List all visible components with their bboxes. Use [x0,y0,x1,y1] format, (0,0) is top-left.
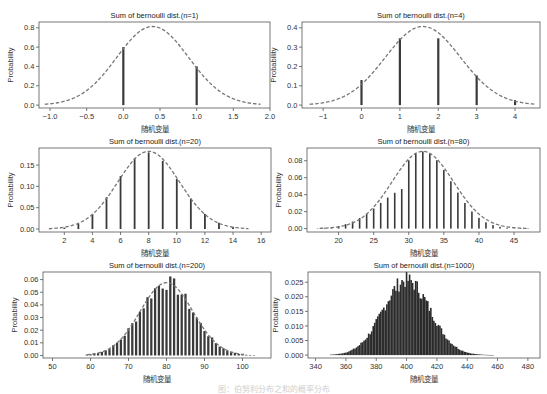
axes-frame [39,22,270,108]
y-axis-label: Probability [271,297,280,332]
y-tick-label: 0.02 [24,326,39,335]
subplot-6: 3403603804004204404604800.0000.0050.0100… [271,261,540,384]
x-axis-ticks: 5060708090100 [48,358,248,371]
subplot-5: 50607080901000.000.010.020.030.040.050.0… [10,261,271,384]
bar [469,353,471,355]
y-tick-label: 0.04 [24,300,39,309]
bar [165,290,167,356]
x-tick-label: 50 [48,362,56,371]
bar [476,354,478,355]
y-tick-label: 0.2 [24,81,34,90]
bar [226,351,228,356]
bar [374,323,376,355]
y-tick-label: 0.08 [288,156,303,165]
bar [437,38,439,105]
bar [184,294,186,356]
y-tick-label: 0.8 [24,23,34,32]
x-tick-label: 2 [436,112,440,121]
bar [334,354,336,355]
bar [397,278,399,355]
bar [77,224,79,229]
bar [148,152,150,229]
bar [341,354,343,355]
bar [429,154,431,229]
x-axis-ticks: −1.0−0.50.00.51.01.52.0 [43,108,276,121]
bar [365,340,367,356]
bars [330,272,494,356]
bar [438,325,440,355]
y-tick-label: 0.05 [20,203,35,212]
bar [410,280,412,355]
bar [196,66,198,105]
y-axis-label: Probability [269,47,278,82]
bar [162,161,164,229]
bar [492,225,494,228]
bar [345,353,347,355]
x-tick-label: 360 [340,362,353,371]
bars [122,47,198,105]
x-tick-label: 45 [510,236,518,245]
bar [477,354,479,355]
y-axis-ticks: 0.00.20.40.60.8 [24,23,39,109]
bar [192,313,194,356]
bar [499,227,501,229]
y-tick-label: 0.0 [24,101,34,110]
subplot-title: Sum of bernoulli dist.(n=80) [378,137,470,146]
bar [422,294,424,355]
y-tick-label: 0.00 [24,351,39,360]
bar [371,331,373,355]
bar [324,228,326,229]
bar [453,346,455,356]
subplot-2: −1012340.00.10.20.30.4Sum of bernoulli d… [269,11,540,134]
bar [407,281,409,355]
bar [101,352,103,356]
x-tick-label: 2.0 [265,112,275,121]
x-axis-label: 随机变量 [407,124,436,134]
bar [190,199,192,229]
bar [139,312,141,356]
normal-fit-curve [320,151,528,228]
bar [447,339,449,355]
y-tick-label: 0.6 [24,43,34,52]
bar [372,326,374,355]
y-tick-label: 0.4 [287,23,297,32]
bar [338,354,340,355]
bar [448,340,450,355]
bar [457,193,459,229]
bar [106,197,108,229]
bar [471,354,473,355]
x-tick-label: 90 [200,362,208,371]
bar [222,348,224,355]
bar [480,355,482,356]
bar [401,280,403,355]
bar [388,301,390,355]
subplot-title: Sum of bernoulli dist.(n=1000) [374,261,475,270]
bar [347,352,349,355]
bar [391,296,393,356]
x-tick-label: 4 [513,112,517,121]
y-tick-label: 0.3 [287,43,297,52]
bar [443,170,445,229]
bar [421,299,423,355]
y-axis-ticks: 0.000.020.040.060.08 [288,156,307,233]
x-tick-label: 4 [90,236,94,245]
x-tick-label: 35 [440,236,448,245]
bar [399,38,401,105]
y-axis-label: Probability [6,47,15,82]
x-axis-label: 随机变量 [141,124,170,134]
bar [219,347,221,356]
bar [468,353,470,355]
bar [196,318,198,356]
bar [479,354,481,355]
y-axis-label: Probability [10,297,19,332]
subplot-title: Sum of bernoulli dist.(n=200) [109,261,206,270]
bar [380,312,382,355]
y-tick-label: 0.4 [24,62,34,71]
bar [120,340,122,356]
x-tick-label: 0.0 [118,112,128,121]
bar [131,323,133,355]
bar [472,354,474,355]
bar [401,189,403,229]
bar [416,281,418,355]
